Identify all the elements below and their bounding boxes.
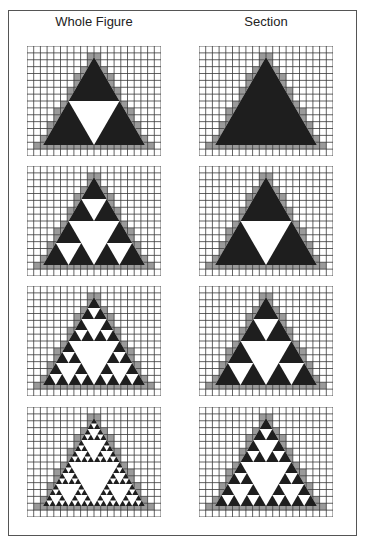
- sierpinski-panel-whole-depth-1: [27, 46, 161, 156]
- sierpinski-panel-section-depth-3: [199, 407, 333, 517]
- column-title-section: Section: [199, 14, 333, 29]
- sierpinski-panel-section-depth-1: [199, 166, 333, 276]
- column-title-whole-figure: Whole Figure: [27, 14, 161, 29]
- sierpinski-panel-section-depth-2: [199, 286, 333, 396]
- sierpinski-panel-section-depth-0: [199, 46, 333, 156]
- sierpinski-panel-whole-depth-4: [27, 407, 161, 517]
- sierpinski-panel-whole-depth-3: [27, 286, 161, 396]
- sierpinski-panel-whole-depth-2: [27, 166, 161, 276]
